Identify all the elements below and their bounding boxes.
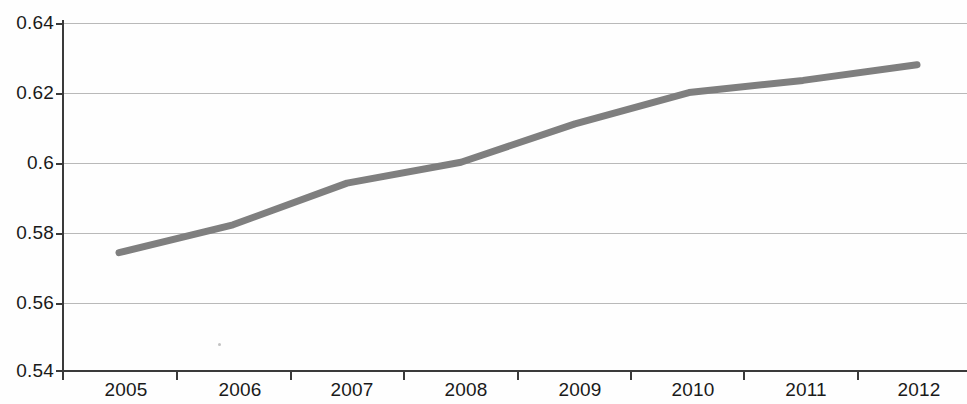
plot-area — [63, 0, 967, 404]
x-axis-tick — [857, 371, 859, 380]
x-axis-tick — [290, 371, 292, 380]
y-axis-line — [62, 20, 64, 373]
gridline-0.64 — [63, 23, 967, 24]
y-axis-label: 0.62 — [0, 82, 54, 104]
y-axis-label: 0.56 — [0, 292, 54, 314]
gridline-0.6 — [63, 163, 967, 164]
y-axis-tick — [56, 93, 64, 95]
y-axis-label: 0.6 — [0, 152, 54, 174]
x-axis-label-2005: 2005 — [104, 379, 147, 401]
line-chart: 0.64 0.62 0.6 0.58 0.56 0.54 2005 2006 2… — [0, 0, 967, 404]
x-axis-tick — [176, 371, 178, 380]
x-axis-label-2006: 2006 — [218, 379, 261, 401]
gridline-0.56 — [63, 303, 967, 304]
x-axis-line — [62, 370, 967, 372]
y-axis-tick — [56, 23, 64, 25]
x-axis-label-2008: 2008 — [444, 379, 487, 401]
x-axis-tick — [630, 371, 632, 380]
x-axis-label-2011: 2011 — [785, 379, 827, 401]
gridline-0.62 — [63, 93, 967, 94]
x-axis-label-2009: 2009 — [558, 379, 601, 401]
y-axis-label: 0.58 — [0, 222, 54, 244]
y-axis-label: 0.54 — [0, 360, 54, 382]
x-axis-tick — [743, 371, 745, 380]
x-axis-label-2010: 2010 — [671, 379, 714, 401]
x-axis-label-2007: 2007 — [330, 379, 373, 401]
y-axis-tick — [56, 163, 64, 165]
y-axis-labels: 0.64 0.62 0.6 0.58 0.56 0.54 — [0, 0, 54, 404]
x-axis-tick — [403, 371, 405, 380]
y-axis-tick — [56, 303, 64, 305]
x-axis-tick — [517, 371, 519, 380]
x-axis-tick — [62, 371, 64, 380]
y-axis-label: 0.64 — [0, 12, 54, 34]
scan-speck — [218, 343, 221, 346]
x-axis-label-2012: 2012 — [897, 379, 940, 401]
y-axis-tick — [56, 233, 64, 235]
gridline-0.58 — [63, 233, 967, 234]
